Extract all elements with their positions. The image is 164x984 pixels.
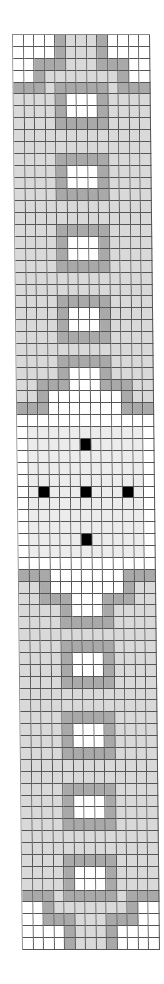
board-cell[interactable]: [61, 594, 72, 606]
board-cell[interactable]: [78, 166, 89, 178]
board-cell[interactable]: [24, 47, 35, 59]
board-cell[interactable]: [62, 689, 73, 701]
board-cell[interactable]: [141, 166, 152, 178]
board-cell[interactable]: [148, 855, 159, 867]
board-cell[interactable]: [102, 510, 113, 522]
board-cell[interactable]: [145, 534, 156, 546]
board-cell[interactable]: [138, 902, 149, 914]
board-cell[interactable]: [68, 201, 79, 213]
board-cell[interactable]: [117, 855, 128, 867]
board-cell[interactable]: [106, 831, 117, 843]
board-cell[interactable]: [41, 653, 52, 665]
board-cell[interactable]: [79, 308, 90, 320]
board-cell[interactable]: [86, 914, 97, 926]
board-cell[interactable]: [75, 879, 86, 891]
board-cell[interactable]: [120, 213, 131, 225]
board-cell[interactable]: [121, 285, 132, 297]
board-cell[interactable]: [108, 59, 119, 71]
board-cell[interactable]: [49, 415, 60, 427]
board-cell[interactable]: [39, 522, 50, 534]
board-cell[interactable]: [126, 700, 137, 712]
board-cell[interactable]: [85, 819, 96, 831]
board-cell[interactable]: [54, 902, 65, 914]
board-cell[interactable]: [42, 796, 53, 808]
board-cell[interactable]: [59, 427, 70, 439]
board-cell[interactable]: [137, 807, 148, 819]
board-cell[interactable]: [73, 748, 84, 760]
board-cell[interactable]: [75, 891, 86, 903]
board-cell[interactable]: [101, 380, 112, 392]
board-cell[interactable]: [71, 534, 82, 546]
board-cell[interactable]: [102, 498, 113, 510]
board-cell[interactable]: [78, 201, 89, 213]
board-cell[interactable]: [80, 403, 91, 415]
board-cell[interactable]: [130, 166, 141, 178]
board-cell[interactable]: [60, 451, 71, 463]
board-cell[interactable]: [32, 855, 43, 867]
board-cell[interactable]: [104, 677, 115, 689]
board-cell[interactable]: [71, 558, 82, 570]
board-cell[interactable]: [117, 902, 128, 914]
board-cell[interactable]: [45, 83, 56, 95]
board-cell[interactable]: [29, 534, 40, 546]
board-cell[interactable]: [74, 807, 85, 819]
board-cell[interactable]: [43, 879, 54, 891]
board-cell[interactable]: [51, 605, 62, 617]
board-cell[interactable]: [18, 498, 29, 510]
board-cell[interactable]: [133, 451, 144, 463]
board-cell[interactable]: [21, 772, 32, 784]
board-cell[interactable]: [126, 712, 137, 724]
board-cell[interactable]: [67, 189, 78, 201]
board-cell[interactable]: [13, 71, 24, 83]
board-cell[interactable]: [67, 166, 78, 178]
board-cell[interactable]: [95, 784, 106, 796]
board-cell[interactable]: [69, 320, 80, 332]
board-cell[interactable]: [109, 118, 120, 130]
board-cell[interactable]: [64, 807, 75, 819]
board-cell[interactable]: [143, 380, 154, 392]
board-cell[interactable]: [62, 665, 73, 677]
board-cell[interactable]: [35, 154, 46, 166]
board-cell[interactable]: [108, 71, 119, 83]
board-cell[interactable]: [85, 843, 96, 855]
board-cell[interactable]: [73, 689, 84, 701]
board-cell[interactable]: [19, 546, 30, 558]
board-cell[interactable]: [62, 629, 73, 641]
board-cell[interactable]: [118, 35, 129, 47]
board-cell[interactable]: [59, 391, 70, 403]
board-cell[interactable]: [125, 653, 136, 665]
board-cell[interactable]: [36, 166, 47, 178]
board-cell[interactable]: [17, 356, 28, 368]
board-cell[interactable]: [127, 831, 138, 843]
board-cell[interactable]: [142, 308, 153, 320]
board-cell[interactable]: [32, 819, 43, 831]
board-cell[interactable]: [70, 463, 81, 475]
board-cell[interactable]: [72, 582, 83, 594]
board-cell[interactable]: [33, 902, 44, 914]
board-cell[interactable]: [84, 712, 95, 724]
board-cell[interactable]: [133, 415, 144, 427]
board-cell[interactable]: [147, 724, 158, 736]
board-cell[interactable]: [45, 94, 56, 106]
board-cell[interactable]: [109, 130, 120, 142]
board-cell[interactable]: [112, 403, 123, 415]
board-cell[interactable]: [84, 760, 95, 772]
board-cell[interactable]: [119, 83, 130, 95]
board-cell[interactable]: [47, 237, 58, 249]
board-cell[interactable]: [17, 368, 28, 380]
board-cell[interactable]: [48, 332, 59, 344]
board-cell[interactable]: [60, 487, 71, 499]
board-cell[interactable]: [95, 819, 106, 831]
board-cell[interactable]: [59, 380, 70, 392]
board-cell[interactable]: [78, 154, 89, 166]
board-cell[interactable]: [116, 784, 127, 796]
board-cell[interactable]: [112, 391, 123, 403]
board-cell[interactable]: [136, 724, 147, 736]
board-cell[interactable]: [140, 106, 151, 118]
board-cell[interactable]: [37, 273, 48, 285]
board-cell[interactable]: [60, 439, 71, 451]
board-cell[interactable]: [36, 249, 47, 261]
board-cell[interactable]: [66, 83, 77, 95]
board-cell[interactable]: [14, 83, 25, 95]
board-cell[interactable]: [142, 237, 153, 249]
